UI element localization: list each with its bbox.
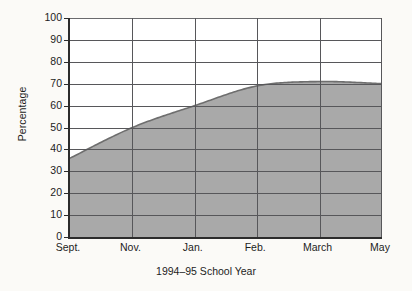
gridline-vertical — [132, 18, 133, 237]
plot-inner — [70, 18, 382, 237]
y-tick-label: 30 — [20, 164, 62, 176]
gridline-horizontal — [70, 128, 382, 129]
y-tick-label: 10 — [20, 208, 62, 220]
gridline-vertical — [195, 18, 196, 237]
y-tick-mark — [64, 40, 69, 41]
x-tick-label: Feb. — [245, 241, 266, 253]
plot-area — [68, 18, 382, 239]
gridline-horizontal — [70, 62, 382, 63]
x-tick-label: Jan. — [183, 241, 203, 253]
gridline-vertical — [381, 18, 382, 237]
gridline-horizontal — [70, 106, 382, 107]
y-tick-mark — [64, 84, 69, 85]
x-tick-label: Sept. — [56, 241, 81, 253]
y-tick-mark — [64, 193, 69, 194]
y-tick-label: 90 — [20, 33, 62, 45]
x-tick-label: May — [370, 241, 390, 253]
y-tick-label: 70 — [20, 77, 62, 89]
gridline-horizontal — [70, 40, 382, 41]
gridline-horizontal — [70, 171, 382, 172]
gridline-vertical — [320, 18, 321, 237]
y-tick-mark — [64, 106, 69, 107]
y-tick-mark — [64, 237, 69, 238]
y-tick-label: 80 — [20, 55, 62, 67]
y-tick-mark — [64, 149, 69, 150]
gridline-horizontal — [70, 149, 382, 150]
y-tick-label: 40 — [20, 142, 62, 154]
y-tick-mark — [64, 215, 69, 216]
y-tick-mark — [64, 171, 69, 172]
chart-figure: Percentage 0102030405060708090100 Sept.N… — [0, 0, 412, 291]
y-tick-label: 100 — [20, 11, 62, 23]
y-tick-mark — [64, 128, 69, 129]
x-tick-label: Nov. — [120, 241, 141, 253]
x-axis-tick-labels: Sept.Nov.Jan.Feb.MarchMay — [0, 241, 412, 259]
y-tick-label: 20 — [20, 186, 62, 198]
gridline-horizontal — [70, 84, 382, 85]
gridline-vertical — [257, 18, 258, 237]
x-axis-title: 1994–95 School Year — [0, 265, 412, 277]
y-tick-mark — [64, 18, 69, 19]
gridline-horizontal — [70, 193, 382, 194]
y-tick-label: 60 — [20, 99, 62, 111]
x-tick-label: March — [303, 241, 332, 253]
y-tick-mark — [64, 62, 69, 63]
gridline-horizontal — [70, 215, 382, 216]
gridline-horizontal — [70, 18, 382, 19]
y-tick-label: 50 — [20, 121, 62, 133]
